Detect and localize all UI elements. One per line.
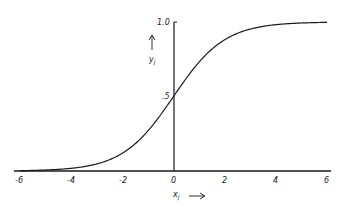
- x-tick-labels: -6 -4 -2 0 2 4 6: [15, 176, 329, 185]
- x-tick-label: 0: [171, 176, 176, 185]
- x-tick-label: 6: [324, 176, 329, 185]
- sigmoid-chart: 1.0 .5 yj -6 -4 -2 0 2 4 6 xj: [0, 0, 343, 212]
- y-tick-label-top: 1.0: [157, 18, 170, 27]
- x-tick-label: -2: [119, 176, 127, 185]
- x-tick-label: -6: [15, 176, 23, 185]
- x-tick-label: 2: [222, 176, 227, 185]
- x-axis-arrow-icon: [189, 193, 205, 199]
- x-tick-label: 4: [273, 176, 278, 185]
- x-axis-label: xj: [172, 190, 180, 201]
- x-tick-label: -4: [67, 176, 75, 185]
- y-axis-label: yj: [148, 55, 156, 66]
- y-axis-arrow-icon: [149, 35, 155, 50]
- y-tick-label-mid: .5: [162, 92, 170, 101]
